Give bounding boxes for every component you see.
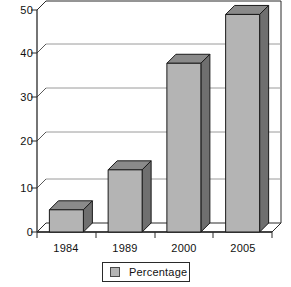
bar-front-face — [226, 14, 260, 232]
bar-2005 — [226, 5, 269, 232]
x-tick-label: 2000 — [161, 243, 207, 254]
plot-left-wall — [37, 1, 46, 232]
y-axis-labels: 50 40 30 20 10 0 — [0, 0, 33, 287]
bar-1989 — [108, 161, 151, 232]
y-tick-label: 0 — [3, 227, 33, 238]
chart-legend: Percentage — [102, 262, 190, 282]
x-axis-ticks — [37, 232, 272, 238]
y-tick-label: 40 — [3, 48, 33, 59]
y-tick-label: 20 — [3, 136, 33, 147]
x-tick-label: 1984 — [43, 243, 89, 254]
y-tick-label: 10 — [3, 183, 33, 194]
y-tick-label: 30 — [3, 92, 33, 103]
legend-swatch-percentage — [110, 267, 120, 277]
bar-side-face — [142, 161, 151, 232]
x-tick-label: 2005 — [220, 243, 266, 254]
x-tick-label: 1989 — [102, 243, 148, 254]
bar-chart: 50 40 30 20 10 0 1984 1989 2000 2005 Per… — [0, 0, 291, 287]
bar-front-face — [108, 170, 142, 232]
bar-front-face — [49, 210, 83, 232]
y-tick-label: 50 — [3, 5, 33, 16]
legend-label-percentage: Percentage — [129, 267, 187, 278]
bar-2000 — [167, 54, 210, 232]
bar-side-face — [201, 54, 210, 232]
bar-side-face — [260, 5, 269, 232]
bar-front-face — [167, 63, 201, 232]
bar-1984 — [49, 201, 92, 232]
